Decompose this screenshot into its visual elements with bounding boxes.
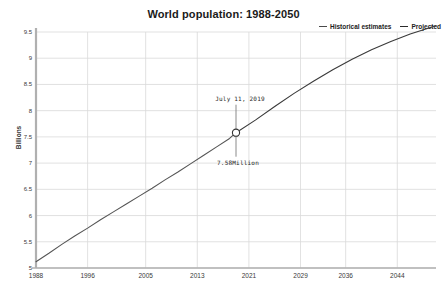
x-tick-label: 2013: [190, 272, 204, 279]
chart-title: World population: 1988-2050: [0, 8, 447, 20]
legend-item-historical: Historical estimates: [319, 23, 391, 30]
y-tick-label: 6: [29, 213, 32, 219]
population-chart: World population: 1988-2050 Historical e…: [0, 0, 447, 292]
annotation-value-label: 7.58Million: [217, 159, 259, 166]
y-tick-label: 8.5: [24, 81, 32, 87]
annotation-date-label: July 11, 2019: [215, 95, 265, 102]
plot-area: 55.566.577.588.599.5 1988199620052013202…: [36, 32, 436, 268]
y-tick-label: 7.5: [24, 134, 32, 140]
y-tick-label: 8: [29, 108, 32, 114]
y-tick-label: 7: [29, 160, 32, 166]
x-tick-label: 2029: [293, 272, 307, 279]
legend-label-historical: Historical estimates: [330, 23, 391, 30]
legend-line-icon-projected: [400, 26, 408, 28]
x-tick-label: 2021: [242, 272, 256, 279]
chart-svg: [36, 32, 436, 268]
x-tick-label: 2044: [390, 272, 404, 279]
x-tick-label: 1988: [29, 272, 43, 279]
y-tick-label: 5.5: [24, 239, 32, 245]
legend-line-icon-historical: [319, 26, 327, 28]
y-tick-label: 9: [29, 55, 32, 61]
chart-legend: Historical estimates Projected: [319, 23, 441, 30]
y-tick-label: 6.5: [24, 186, 32, 192]
x-tick-label: 1996: [80, 272, 94, 279]
x-tick-label: 2005: [138, 272, 152, 279]
y-tick-label: 5: [29, 265, 32, 271]
y-tick-label: 9.5: [24, 29, 32, 35]
x-tick-label: 2036: [338, 272, 352, 279]
y-axis-title: Billions: [15, 108, 22, 168]
